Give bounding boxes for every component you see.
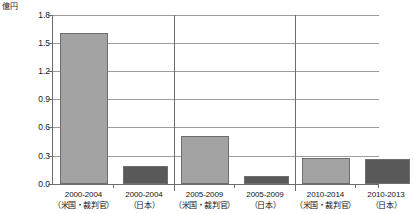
gridline-1.8 <box>53 15 379 16</box>
x-label-line2: （米国・裁判官） <box>53 200 114 211</box>
x-tick-mark-1 <box>113 184 114 188</box>
y-tick-label-1.2: 1.2 <box>8 67 50 76</box>
x-label-line1: 2000-2004 <box>53 189 114 200</box>
plot-area <box>53 15 379 184</box>
bar-2005-2009-japan <box>244 176 289 184</box>
group-separator-2 <box>295 15 296 191</box>
x-label-2000-2004-japan: 2000-2004 （日本） <box>114 189 174 211</box>
x-label-line2: （日本） <box>235 200 295 211</box>
x-label-line2: （米国・裁判官） <box>174 200 235 211</box>
x-label-line2: （日本） <box>114 200 174 211</box>
gridline-baseline-0.0 <box>53 184 379 185</box>
y-tick-label-0.0: 0.0 <box>8 180 50 189</box>
y-tick-label-0.3: 0.3 <box>8 152 50 161</box>
bar-2000-2004-us-judge <box>60 33 108 184</box>
x-tick-mark-2 <box>234 184 235 188</box>
x-label-line1: 2000-2004 <box>114 189 174 200</box>
group-separator-1 <box>174 15 175 191</box>
x-label-line2: （日本） <box>356 200 414 211</box>
y-tick-label-0.6: 0.6 <box>8 123 50 132</box>
y-tick-label-1.8: 1.8 <box>8 11 50 20</box>
y-axis-ticks: 1.8 1.5 1.2 0.9 0.6 0.3 0.0 <box>0 0 50 214</box>
x-tick-mark-end <box>378 184 379 188</box>
x-label-line1: 2010-2014 <box>295 189 356 200</box>
bar-2000-2004-japan <box>123 166 168 184</box>
x-label-2005-2009-us-judge: 2005-2009 （米国・裁判官） <box>174 189 235 211</box>
bar-2010-2013-japan <box>365 159 410 184</box>
y-tick-label-0.9: 0.9 <box>8 95 50 104</box>
y-tick-label-1.5: 1.5 <box>8 39 50 48</box>
bar-2010-2014-us-judge <box>302 158 350 184</box>
x-label-line2: （米国・裁判官） <box>295 200 356 211</box>
x-label-2000-2004-us-judge: 2000-2004 （米国・裁判官） <box>53 189 114 211</box>
x-label-2010-2013-japan: 2010-2013 （日本） <box>356 189 414 211</box>
x-label-2010-2014-us-judge: 2010-2014 （米国・裁判官） <box>295 189 356 211</box>
x-label-line1: 2005-2009 <box>235 189 295 200</box>
x-label-line1: 2005-2009 <box>174 189 235 200</box>
x-label-line1: 2010-2013 <box>356 189 414 200</box>
x-tick-mark-3 <box>355 184 356 188</box>
x-label-2005-2009-japan: 2005-2009 （日本） <box>235 189 295 211</box>
bar-2005-2009-us-judge <box>181 136 229 184</box>
